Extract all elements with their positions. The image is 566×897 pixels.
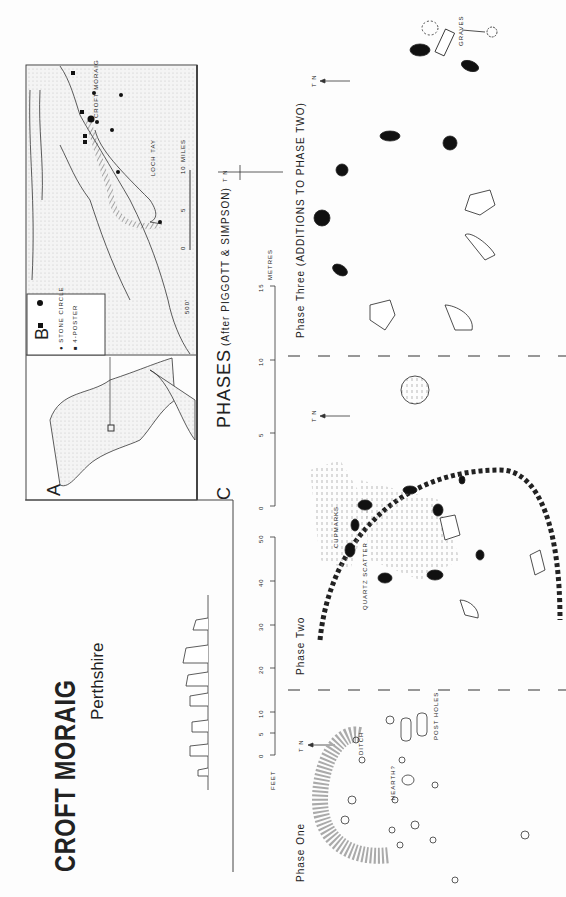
metres-tick-0: 0 (258, 506, 264, 510)
annotation-cupmarks: CUPMARKS (333, 506, 339, 548)
north-arrows (218, 79, 350, 747)
legend-four-poster-label: 4-POSTER (72, 305, 78, 343)
map-label-croft-moraig: CROFT MORAIG (93, 59, 99, 118)
phase-three-label: Phase Three (ADDITIONS TO PHASE TWO) (295, 102, 306, 338)
metres-tick-15: 15 (258, 283, 264, 292)
north-label-phase-two: T N (311, 409, 317, 422)
croft-moraig-plan-sheet: CROFT MORAIG Perthshire A B ● STONE CIRC… (0, 0, 566, 897)
miles-tick-0: 0 (180, 246, 186, 250)
north-label-main: T N (222, 169, 228, 182)
north-label-phase-one: T N (298, 739, 304, 752)
annotation-hearth: HEARTH? (390, 765, 396, 800)
annotation-quartz-scatter: QUARTZ SCATTER (362, 542, 368, 610)
credit-text: (After PIGGOTT & SIMPSON) (220, 187, 231, 346)
page-subtitle: Perthshire (88, 643, 108, 720)
page-title: CROFT MORAIG (48, 679, 82, 872)
phase-three-stones (314, 21, 497, 330)
annotation-post-holes: POST HOLES (433, 692, 439, 740)
contour-label: 500' (184, 299, 190, 314)
map-b (27, 66, 196, 355)
metres-tick-5: 5 (258, 433, 264, 437)
metres-unit: METRES (267, 249, 273, 280)
miles-tick-10: 10 (180, 165, 186, 174)
phase-one-features (320, 713, 529, 883)
feet-tick-10: 10 (258, 709, 264, 718)
map-label-loch-tay: LOCH TAY (150, 139, 156, 176)
panel-c-label: C (214, 486, 235, 500)
stone-elevation (183, 595, 208, 790)
feet-tick-0: 0 (258, 754, 264, 758)
feet-unit: FEET (270, 771, 276, 790)
legend-stone-circle-label: STONE CIRCLE (58, 286, 64, 342)
feet-tick-20: 20 (258, 665, 264, 674)
north-label-phase-three: T N (311, 74, 317, 87)
legend-stone-circle: ● STONE CIRCLE (58, 286, 64, 350)
feet-tick-50: 50 (258, 534, 264, 543)
scale-bars (270, 286, 275, 755)
miles-tick-5: 5 (180, 208, 186, 212)
feet-tick-30: 30 (258, 622, 264, 631)
annotation-graves: GRAVES (458, 15, 464, 46)
map-a (50, 357, 195, 486)
panel-b-label: B (32, 327, 53, 340)
panel-a-label: A (44, 483, 65, 496)
feet-tick-40: 40 (258, 578, 264, 587)
feet-tick-5: 5 (258, 732, 264, 736)
legend-four-poster: ■ 4-POSTER (72, 305, 78, 350)
phase-one-label: Phase One (295, 823, 306, 882)
phase-two-label: Phase Two (295, 617, 306, 675)
metres-tick-10: 10 (258, 357, 264, 366)
plan-drawing (0, 0, 566, 897)
miles-unit: MILES (180, 139, 186, 162)
phases-heading: PHASES (214, 349, 235, 428)
annotation-ditch: DITCH (358, 732, 364, 755)
